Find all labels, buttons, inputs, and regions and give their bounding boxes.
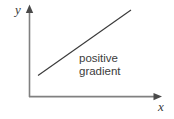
x-axis-label: x (158, 100, 164, 113)
y-axis-arrowhead (26, 5, 33, 14)
graph-figure: y x positive gradient (0, 0, 174, 119)
annotation-line-2: gradient (79, 65, 121, 78)
annotation-line-1: positive (79, 52, 121, 65)
y-axis-label: y (15, 3, 21, 16)
annotation-text: positive gradient (79, 52, 121, 78)
